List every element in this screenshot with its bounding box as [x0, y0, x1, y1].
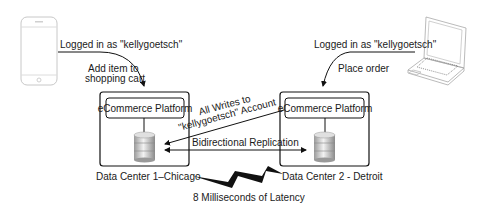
database-icon — [314, 132, 335, 163]
data-center-2-label: Data Center 2 - Detroit — [282, 171, 383, 182]
replication-label: Bidirectional Replication — [192, 137, 299, 148]
data-center-1-label: Data Center 1–Chicago — [96, 171, 201, 182]
lightning-bolt-icon — [193, 166, 283, 188]
latency-label: 8 Milliseconds of Latency — [193, 192, 305, 203]
laptop-icon — [408, 17, 466, 85]
laptop-login-label: Logged in as "kellygoetsch" — [314, 39, 437, 50]
diagram-canvas: Logged in as "kellygoetsch" Add item to … — [0, 0, 486, 206]
platform-label-chicago: eCommerce Platform — [98, 103, 192, 114]
mobile-login-label: Logged in as "kellygoetsch" — [60, 39, 183, 50]
mobile-action-label-2: shopping cart — [85, 73, 145, 84]
laptop-action-label: Place order — [338, 63, 390, 74]
smartphone-icon — [21, 17, 57, 85]
database-icon — [134, 132, 155, 163]
data-center-chicago: eCommerce Platform Data Center 1–Chicago — [96, 92, 201, 182]
platform-label-detroit: eCommerce Platform — [278, 103, 372, 114]
